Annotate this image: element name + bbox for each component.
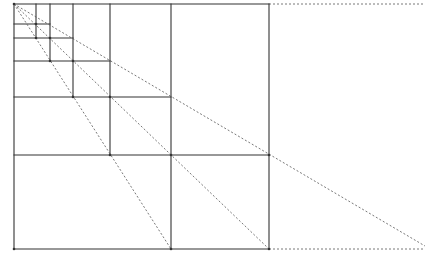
vertex-dot [49, 60, 52, 63]
vertex-dot [268, 154, 271, 157]
nested-rectangles-diagram [0, 0, 425, 261]
vertex-dot [109, 154, 112, 157]
vertex-dot [35, 23, 38, 26]
vertex-dot [35, 37, 38, 40]
vertex-dot [268, 248, 271, 251]
vertex-dot [170, 248, 173, 251]
vertex-dot [170, 154, 173, 157]
vertex-dot [109, 96, 112, 99]
vertex-dot [49, 37, 52, 40]
vertex-dot [13, 3, 16, 6]
dashed-diagonal-line [14, 4, 171, 249]
dashed-diagonal-line [14, 4, 425, 246]
vertex-dot [72, 96, 75, 99]
dashed-diagonal-line [14, 4, 269, 249]
vertex-dot [72, 60, 75, 63]
dashed-diagonals [14, 4, 425, 249]
vertex-dot [13, 248, 16, 251]
